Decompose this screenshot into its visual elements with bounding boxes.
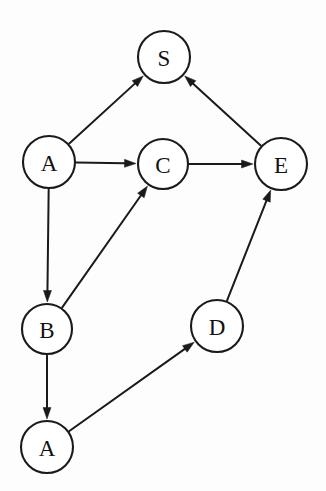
edge-a1-to-s xyxy=(69,76,143,144)
arrowhead-icon xyxy=(183,342,195,352)
arrowhead-icon xyxy=(43,290,51,302)
directed-graph: SACEBDA xyxy=(0,0,326,491)
edge-line xyxy=(62,196,141,308)
node-label: A xyxy=(39,436,56,461)
edges-layer xyxy=(43,76,271,431)
edge-b-to-a2 xyxy=(43,356,51,420)
edge-a2-to-d xyxy=(69,342,194,431)
node-label: E xyxy=(274,153,288,178)
node-c[interactable]: C xyxy=(138,139,188,189)
diagram-canvas: SACEBDA xyxy=(0,0,326,491)
arrowhead-icon xyxy=(263,190,271,202)
edge-c-to-e xyxy=(190,160,254,168)
arrowhead-icon xyxy=(124,159,136,167)
edge-a1-to-b xyxy=(43,190,51,303)
node-a2[interactable]: A xyxy=(21,421,73,473)
edge-b-to-c xyxy=(62,186,147,307)
node-label: C xyxy=(155,153,170,178)
edge-line xyxy=(77,162,125,163)
edge-e-to-s xyxy=(185,76,261,146)
edge-line xyxy=(227,201,266,301)
node-d[interactable]: D xyxy=(191,300,243,352)
arrowhead-icon xyxy=(242,160,254,168)
node-s[interactable]: S xyxy=(138,31,190,83)
edge-line xyxy=(69,349,184,431)
edge-a1-to-c xyxy=(77,159,137,167)
node-a1[interactable]: A xyxy=(23,136,75,188)
node-label: A xyxy=(41,151,58,176)
edge-line xyxy=(47,190,48,291)
node-label: S xyxy=(158,46,171,71)
arrowhead-icon xyxy=(138,186,148,198)
arrowhead-icon xyxy=(43,408,51,420)
edge-line xyxy=(69,84,135,144)
node-label: B xyxy=(39,318,54,343)
nodes-layer: SACEBDA xyxy=(21,31,307,473)
node-e[interactable]: E xyxy=(255,138,307,190)
edge-d-to-e xyxy=(227,190,271,300)
edge-line xyxy=(193,84,261,146)
node-label: D xyxy=(209,315,226,340)
node-b[interactable]: B xyxy=(22,304,72,354)
